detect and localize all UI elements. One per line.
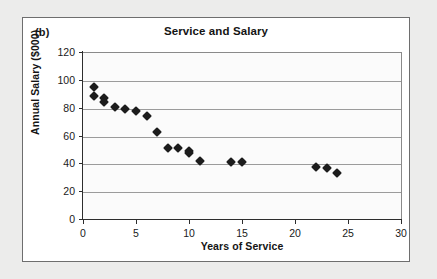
y-tick-label: 80 bbox=[63, 102, 75, 114]
x-tick-label: 20 bbox=[289, 227, 301, 239]
data-point bbox=[110, 102, 120, 112]
x-tick-label: 10 bbox=[183, 227, 195, 239]
gridline bbox=[83, 192, 401, 193]
data-point bbox=[142, 111, 152, 121]
y-tick-mark bbox=[79, 108, 83, 109]
data-point bbox=[332, 168, 342, 178]
x-tick-label: 25 bbox=[342, 227, 354, 239]
x-tick-mark bbox=[348, 219, 349, 224]
chart-title: Service and Salary bbox=[23, 25, 409, 37]
y-tick-label: 20 bbox=[63, 185, 75, 197]
data-point bbox=[89, 91, 99, 101]
x-tick-mark bbox=[295, 219, 296, 224]
y-tick-label: 40 bbox=[63, 157, 75, 169]
x-tick-label: 30 bbox=[395, 227, 407, 239]
gridline bbox=[83, 81, 401, 82]
x-tick-mark bbox=[136, 219, 137, 224]
y-tick-mark bbox=[79, 136, 83, 137]
y-tick-mark bbox=[79, 163, 83, 164]
y-axis-title: Annual Salary ($000) bbox=[29, 30, 41, 135]
y-tick-label: 0 bbox=[69, 213, 75, 225]
data-point bbox=[226, 157, 236, 167]
y-tick-label: 100 bbox=[57, 74, 75, 86]
x-axis-title: Years of Service bbox=[83, 240, 401, 252]
data-point bbox=[237, 157, 247, 167]
y-tick-mark bbox=[79, 80, 83, 81]
data-point bbox=[120, 104, 130, 114]
gridline bbox=[83, 137, 401, 138]
y-tick-label: 60 bbox=[63, 130, 75, 142]
x-tick-mark bbox=[242, 219, 243, 224]
x-tick-label: 0 bbox=[80, 227, 86, 239]
y-tick-mark bbox=[79, 191, 83, 192]
x-tick-mark bbox=[189, 219, 190, 224]
data-point bbox=[173, 143, 183, 153]
data-point bbox=[131, 106, 141, 116]
x-tick-mark bbox=[401, 219, 402, 224]
x-tick-label: 5 bbox=[133, 227, 139, 239]
plot-area bbox=[83, 52, 402, 220]
chart-figure: (b) Service and Salary 020406080100120 0… bbox=[22, 17, 410, 262]
x-tick-mark bbox=[83, 219, 84, 224]
y-tick-mark bbox=[79, 52, 83, 53]
y-tick-label: 120 bbox=[57, 46, 75, 58]
x-tick-label: 15 bbox=[236, 227, 248, 239]
data-point bbox=[163, 143, 173, 153]
